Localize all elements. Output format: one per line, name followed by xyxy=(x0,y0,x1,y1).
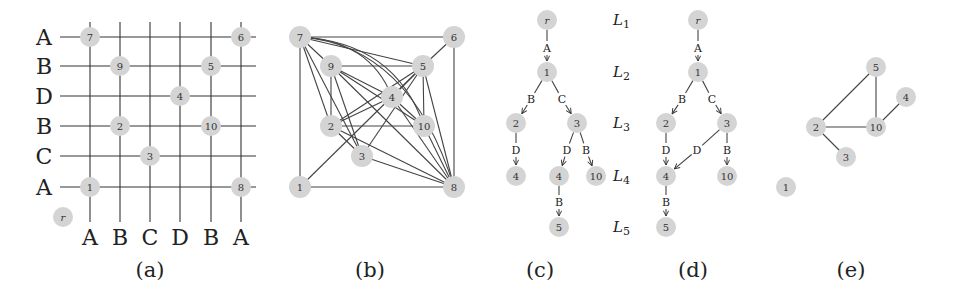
edge-letter-label: A xyxy=(693,42,703,55)
level-subscript: 2 xyxy=(623,70,630,83)
graph-node: 2 xyxy=(320,115,342,137)
level-subscript: 5 xyxy=(623,225,630,238)
graph-node: 4 xyxy=(549,166,569,186)
node-label: 4 xyxy=(389,92,395,103)
level-main: L xyxy=(612,218,623,236)
graph-node: 4 xyxy=(656,166,676,186)
node-label: 7 xyxy=(87,32,93,43)
node-label: 6 xyxy=(238,32,244,43)
row-label: B xyxy=(36,54,52,79)
col-label: A xyxy=(232,225,250,250)
tree-edge-arrow xyxy=(674,154,691,168)
level-label: L2 xyxy=(612,63,630,83)
graph-node: 4 xyxy=(506,166,526,186)
node-label: 3 xyxy=(724,118,730,129)
edge-letter-label: B xyxy=(582,144,590,157)
graph-node: 9 xyxy=(320,55,342,77)
caption-b: (b) xyxy=(355,258,385,282)
graph-node: 7 xyxy=(289,26,311,48)
graph-node: r xyxy=(53,207,73,227)
col-label: D xyxy=(171,225,189,250)
level-main: L xyxy=(612,167,623,185)
level-label: L1 xyxy=(612,11,630,31)
edge-letter-label: D xyxy=(693,144,702,157)
level-label: L3 xyxy=(612,114,630,134)
node-label: 2 xyxy=(117,121,123,132)
edge-letter-label: D xyxy=(563,144,572,157)
caption-a: (a) xyxy=(136,258,165,282)
level-subscript: 4 xyxy=(623,174,630,187)
graph-edge xyxy=(362,156,454,187)
node-label: 4 xyxy=(177,91,183,102)
graph-edge xyxy=(300,37,331,126)
node-label: 1 xyxy=(297,182,303,193)
tree-edge-arrow xyxy=(522,105,527,114)
graph-node: 3 xyxy=(567,113,587,133)
caption-d: (d) xyxy=(678,258,708,282)
level-main: L xyxy=(612,11,623,29)
graph-node: 5 xyxy=(866,57,886,77)
edge-letter-label: B xyxy=(723,144,731,157)
edge-letter-label: B xyxy=(662,196,670,209)
node-label: 1 xyxy=(87,182,93,193)
graph-node: 1 xyxy=(80,177,100,197)
node-label: 4 xyxy=(556,171,562,182)
graph-node: r xyxy=(537,10,557,30)
node-label: 1 xyxy=(544,67,550,78)
node-label: 3 xyxy=(147,151,153,162)
graph-node: 2 xyxy=(656,113,676,133)
graph-node: 8 xyxy=(443,176,465,198)
graph-node: 9 xyxy=(110,56,130,76)
node-label: 9 xyxy=(117,61,123,72)
tree-edge-upper xyxy=(703,81,709,93)
graph-node: 5 xyxy=(412,55,434,77)
node-label: 7 xyxy=(297,32,303,43)
graph-node: 1 xyxy=(537,62,557,82)
node-label: 4 xyxy=(513,171,519,182)
graph-node: 2 xyxy=(806,117,826,137)
edge-letter-label: D xyxy=(662,144,671,157)
graph-node: 3 xyxy=(717,113,737,133)
tree-edge-upper xyxy=(569,132,573,143)
col-label: C xyxy=(142,225,159,250)
graph-node: 3 xyxy=(351,145,373,167)
caption-e: (e) xyxy=(837,258,866,282)
node-label: 5 xyxy=(663,222,669,233)
graph-node: 10 xyxy=(866,117,886,137)
node-label: 10 xyxy=(205,121,218,132)
node-label: 10 xyxy=(590,171,603,182)
graph-node: 2 xyxy=(110,116,130,136)
node-label: 8 xyxy=(238,182,244,193)
node-label: 3 xyxy=(843,152,849,163)
graph-node: 10 xyxy=(201,116,221,136)
node-label: 3 xyxy=(359,151,365,162)
level-subscript: 3 xyxy=(623,121,630,134)
tree-edge-upper xyxy=(702,130,719,146)
col-label: B xyxy=(112,225,128,250)
node-label: 10 xyxy=(721,171,734,182)
row-label: D xyxy=(35,84,53,109)
graph-node: 4 xyxy=(381,86,403,108)
graph-edge xyxy=(331,126,454,187)
node-label: 1 xyxy=(783,182,789,193)
node-label: 8 xyxy=(451,182,457,193)
node-label: 2 xyxy=(328,121,334,132)
graph-curved-edge xyxy=(300,37,392,97)
caption-c: (c) xyxy=(526,258,554,282)
level-label: L4 xyxy=(612,167,630,187)
graph-node: 10 xyxy=(413,115,435,137)
graph-edge xyxy=(362,66,423,156)
row-label: B xyxy=(36,114,52,139)
graph-node: 5 xyxy=(656,217,676,237)
graph-edge xyxy=(392,97,454,187)
graph-node: 4 xyxy=(896,87,916,107)
tree-edge-upper xyxy=(580,132,584,143)
graph-node: 10 xyxy=(586,166,606,186)
level-main: L xyxy=(612,114,623,132)
node-label: 1 xyxy=(695,67,701,78)
tree-edge-upper xyxy=(552,81,559,93)
row-label: A xyxy=(35,175,53,200)
figure-canvas: ABDBCAABCDBA76954210318r 76954210318 ABC… xyxy=(0,0,954,302)
edge-letter-label: B xyxy=(527,93,535,106)
edge-letter-label: B xyxy=(555,196,563,209)
